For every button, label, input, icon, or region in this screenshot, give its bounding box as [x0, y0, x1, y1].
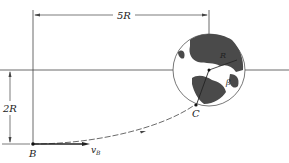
trajectory-path — [33, 104, 196, 144]
velocity-label: vB — [91, 145, 101, 156]
dimension-5r-label: 5R — [117, 10, 131, 21]
radius-label: R — [219, 51, 226, 60]
earth-center-point — [208, 69, 211, 72]
angle-label: β — [225, 78, 231, 87]
point-c — [194, 103, 197, 106]
point-c-label: C — [192, 108, 200, 119]
dimension-2r-label: 2R — [2, 103, 17, 114]
point-b-label: B — [28, 148, 36, 159]
trajectory-diagram: 5R 2R R β C B vB — [0, 0, 289, 163]
velocity-arrowhead — [82, 142, 90, 146]
trajectory-arrow — [140, 131, 146, 134]
